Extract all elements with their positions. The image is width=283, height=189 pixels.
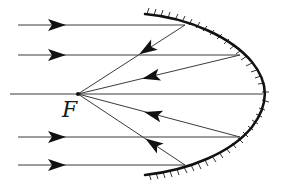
reflected-ray-5 — [78, 94, 185, 165]
incident-arrows — [48, 19, 66, 171]
reflected-ray-2 — [78, 55, 240, 94]
arrow-icon — [141, 69, 161, 85]
reflected-arrows — [136, 40, 164, 154]
focus-point — [76, 92, 80, 96]
incident-rays — [10, 25, 263, 165]
arrow-icon — [136, 40, 158, 60]
reflected-ray-1 — [78, 25, 185, 94]
arrow-icon — [143, 106, 163, 122]
focus-label: F — [62, 99, 77, 121]
reflected-ray-4 — [78, 94, 240, 137]
parabolic-mirror-diagram — [0, 0, 283, 189]
